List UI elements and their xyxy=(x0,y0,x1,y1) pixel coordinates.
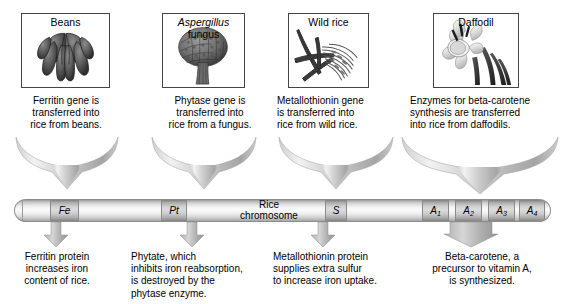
funnel-arrow-metallothionin xyxy=(275,136,397,200)
source-box-aspergillus: Aspergillus fungus xyxy=(162,13,245,88)
source-box-daffodil: Daffodil xyxy=(433,13,519,88)
down-arrow-metallothionin xyxy=(308,222,338,248)
gene-band-s: S xyxy=(325,200,347,221)
source-caption-wild-rice: Wild rice xyxy=(289,16,368,28)
source-box-wild-rice: Wild rice xyxy=(288,13,369,88)
down-arrow-beta-carotene xyxy=(440,222,502,248)
diagram-canvas: Beans Aspergillus fungus xyxy=(0,0,565,304)
gene-band-a4: A4 xyxy=(519,200,545,221)
source-caption-aspergillus: Aspergillus fungus xyxy=(163,16,244,40)
chromosome-label: Rice chromosome xyxy=(210,200,328,221)
gene-band-a1: A1 xyxy=(422,200,449,221)
transfer-text-phytase: Phytase gene is transferred into rice fr… xyxy=(150,95,270,132)
funnel-arrow-ferritin xyxy=(12,136,122,200)
result-text-metallothionin: Metallothionin protein supplies extra su… xyxy=(273,251,409,288)
chromosome-left-cap xyxy=(22,200,31,221)
source-caption-daffodil: Daffodil xyxy=(434,16,518,28)
gene-band-pt: Pt xyxy=(161,200,187,221)
result-text-ferritin: Ferritin protein increases iron content … xyxy=(5,251,109,288)
transfer-text-metallothionin: Metallothionin gene is transferred into … xyxy=(277,95,401,132)
gene-band-a2: A2 xyxy=(455,200,482,221)
result-text-phytate: Phytate, which inhibits iron reabsorptio… xyxy=(131,251,267,300)
gene-band-a3: A3 xyxy=(488,200,515,221)
gene-band-fe: Fe xyxy=(50,200,79,221)
transfer-text-ferritin: Ferritin gene is transferred into rice f… xyxy=(10,95,122,132)
source-box-beans: Beans xyxy=(21,13,110,88)
funnel-arrow-phytase xyxy=(148,136,260,200)
down-arrow-phytase xyxy=(177,222,207,248)
rice-chromosome-bar: Fe Pt Rice chromosome S A1 A2 A3 A4 xyxy=(14,199,551,222)
result-text-beta-carotene: Beta-carotene, a precursor to vitamin A,… xyxy=(420,251,544,288)
source-caption-beans: Beans xyxy=(22,16,109,28)
transfer-text-beta-carotene: Enzymes for beta-carotene synthesis are … xyxy=(410,95,562,132)
funnel-arrow-beta-carotene xyxy=(398,136,562,202)
down-arrow-ferritin xyxy=(41,222,71,248)
